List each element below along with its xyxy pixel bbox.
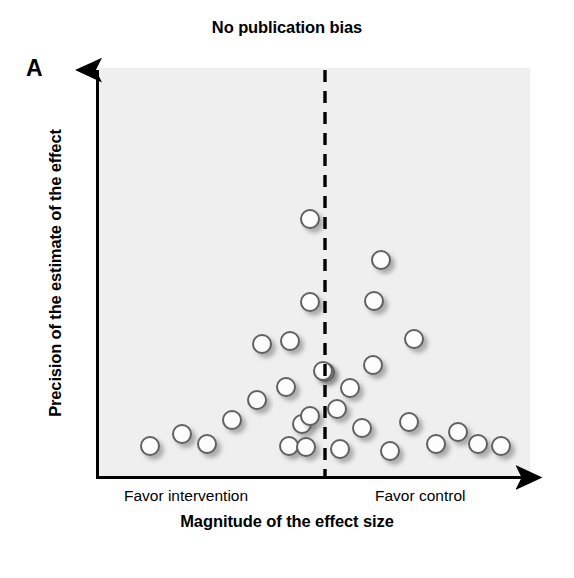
data-point <box>448 422 468 442</box>
favor-control-label: Favor control <box>375 487 465 505</box>
chart-title: No publication bias <box>0 18 574 37</box>
data-point <box>380 441 400 461</box>
funnel-plot-figure: No publication bias A Precision of the e… <box>0 0 574 578</box>
data-point <box>404 329 424 349</box>
data-point <box>222 410 242 430</box>
data-point <box>327 399 347 419</box>
data-point <box>352 418 372 438</box>
data-point <box>300 292 320 312</box>
y-axis-label-container: Precision of the estimate of the effect <box>40 68 70 478</box>
data-point <box>426 434 446 454</box>
data-point <box>340 378 360 398</box>
plot-area <box>97 68 530 478</box>
data-point <box>468 434 488 454</box>
data-point <box>296 437 316 457</box>
data-point <box>276 377 296 397</box>
data-point <box>300 406 320 426</box>
data-point <box>247 390 267 410</box>
x-axis-label: Magnitude of the effect size <box>0 512 574 531</box>
data-point <box>330 439 350 459</box>
data-point <box>140 436 160 456</box>
data-point <box>364 291 384 311</box>
data-point <box>363 355 383 375</box>
data-point <box>371 250 391 270</box>
y-axis-label: Precision of the estimate of the effect <box>46 129 65 417</box>
data-point <box>197 434 217 454</box>
data-point <box>313 361 333 381</box>
data-point <box>280 331 300 351</box>
data-point <box>252 334 272 354</box>
data-point <box>491 436 511 456</box>
data-point <box>300 209 320 229</box>
favor-intervention-label: Favor intervention <box>124 487 248 505</box>
data-point <box>172 424 192 444</box>
data-point <box>399 412 419 432</box>
